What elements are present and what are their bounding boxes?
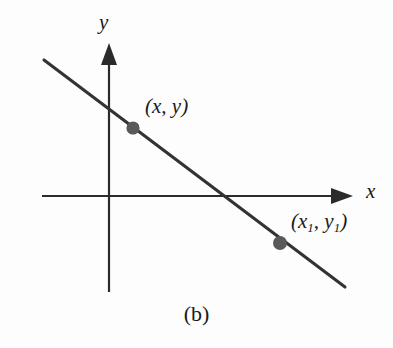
figure-caption: (b)	[0, 303, 393, 325]
y-axis-label: y	[99, 12, 108, 33]
var-y: y	[172, 94, 181, 118]
data-point-xy-marker	[126, 121, 139, 134]
data-point-x1y1-marker	[273, 236, 287, 250]
figure-container: y x (x, y) (x1, y1) (b)	[0, 0, 393, 348]
y-axis-arrowhead	[101, 43, 117, 65]
data-point-xy-label: (x, y)	[145, 96, 188, 117]
separator: ,	[314, 209, 325, 233]
paren-open: (	[145, 94, 152, 118]
separator: ,	[161, 94, 172, 118]
data-point-x1y1-label: (x1, y1)	[291, 211, 347, 234]
x-axis-arrowhead	[331, 188, 353, 204]
coordinate-plot-svg	[0, 0, 393, 348]
x-axis-label: x	[366, 181, 375, 202]
paren-close: )	[181, 94, 188, 118]
var-x: x	[298, 209, 307, 233]
plotted-line	[44, 60, 345, 287]
var-y: y	[324, 209, 333, 233]
var-x: x	[152, 94, 161, 118]
paren-close: )	[340, 209, 347, 233]
paren-open: (	[291, 209, 298, 233]
